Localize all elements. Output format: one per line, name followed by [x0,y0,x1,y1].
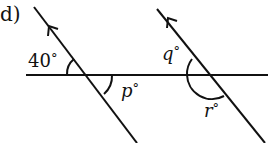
angle-q-arc [187,59,192,75]
angle-r-label: r° [204,102,219,120]
parallel-lines-diagram [0,0,274,143]
angle-40-arc [67,59,74,75]
angle-40-label: 40° [28,52,57,70]
part-label: d) [0,4,21,24]
angle-q-label: q° [162,45,180,63]
angle-r-arc [187,75,224,99]
angle-p-label: p° [121,82,139,100]
angle-p-arc [104,75,112,94]
